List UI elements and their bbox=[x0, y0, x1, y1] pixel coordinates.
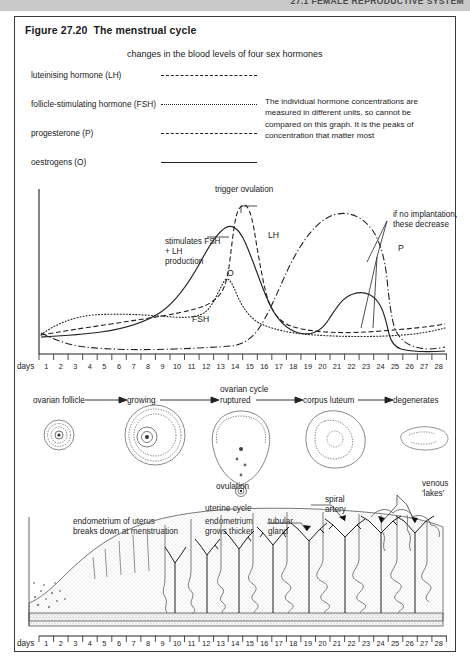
day-tick-label: 16 bbox=[257, 362, 271, 371]
day-tick-label: 12 bbox=[199, 639, 213, 648]
day-tick-label: 7 bbox=[126, 362, 140, 371]
day-tick-label: 17 bbox=[272, 362, 286, 371]
curve-label-p: P bbox=[398, 243, 404, 253]
day-tick-label: 9 bbox=[156, 362, 170, 371]
day-tick-label: 19 bbox=[301, 639, 315, 648]
corpus-luteum bbox=[306, 411, 365, 468]
day-tick-label: 5 bbox=[97, 639, 111, 648]
day-tick-label: 14 bbox=[228, 362, 242, 371]
running-head-text: 27.1 FEMALE REPRODUCTIVE SYSTEM bbox=[291, 0, 464, 6]
day-tick-label: 11 bbox=[185, 639, 199, 648]
curve-label-lh: LH bbox=[268, 230, 279, 240]
day-tick-label: 7 bbox=[126, 639, 140, 648]
day-tick-label: 25 bbox=[388, 362, 402, 371]
day-tick-label: 4 bbox=[83, 362, 97, 371]
day-tick-label: 1 bbox=[39, 362, 53, 371]
day-tick-label: 13 bbox=[214, 639, 228, 648]
annotation-no-implantation: if no implantation, these decrease bbox=[393, 210, 467, 230]
day-tick-label: 15 bbox=[243, 362, 257, 371]
day-tick-label: 22 bbox=[345, 362, 359, 371]
day-tick-label: 2 bbox=[54, 639, 68, 648]
uterine-cycle-diagram bbox=[15, 487, 457, 637]
day-tick-label: 10 bbox=[170, 362, 184, 371]
day-tick-label: 14 bbox=[228, 639, 242, 648]
day-tick-label: 18 bbox=[286, 362, 300, 371]
myometrium-layer bbox=[29, 613, 443, 626]
figure-container: Figure 27.20 The menstrual cycle changes… bbox=[14, 16, 456, 652]
curve-label-fsh: FSH bbox=[192, 314, 209, 324]
day-tick-label: 26 bbox=[403, 362, 417, 371]
day-tick-label: 6 bbox=[112, 639, 126, 648]
follicle-small bbox=[44, 420, 74, 450]
day-tick-label: 21 bbox=[330, 362, 344, 371]
annotation-leaders bbox=[207, 206, 387, 328]
day-tick-label: 18 bbox=[286, 639, 300, 648]
annotation-trigger-ovulation: trigger ovulation bbox=[215, 185, 275, 195]
curve-oestrogens bbox=[41, 226, 445, 351]
day-tick-label: 2 bbox=[54, 362, 68, 371]
hormone-graph bbox=[15, 17, 457, 377]
day-tick-label: 5 bbox=[97, 362, 111, 371]
day-tick-label: 22 bbox=[345, 639, 359, 648]
day-tick-label: 4 bbox=[83, 639, 97, 648]
stage-arrows bbox=[85, 397, 393, 403]
day-tick-label: 3 bbox=[68, 639, 82, 648]
day-tick-label: 25 bbox=[388, 639, 402, 648]
day-tick-label: 20 bbox=[315, 362, 329, 371]
follicle-growing bbox=[125, 405, 185, 465]
uterine-days-word: days bbox=[17, 639, 34, 648]
day-tick-label: 24 bbox=[374, 362, 388, 371]
day-tick-label: 28 bbox=[432, 639, 446, 648]
day-tick-label: 8 bbox=[141, 639, 155, 648]
day-tick-label: 26 bbox=[403, 639, 417, 648]
day-tick-label: 13 bbox=[214, 362, 228, 371]
day-tick-label: 16 bbox=[257, 639, 271, 648]
day-tick-label: 9 bbox=[156, 639, 170, 648]
day-tick-label: 12 bbox=[199, 362, 213, 371]
day-tick-label: 27 bbox=[417, 639, 431, 648]
annotation-stimulates: stimulates FSH + LH production bbox=[165, 237, 221, 267]
day-tick-label: 24 bbox=[374, 639, 388, 648]
corpus-albicans bbox=[401, 427, 448, 450]
day-tick-label: 17 bbox=[272, 639, 286, 648]
day-tick-label: 21 bbox=[330, 639, 344, 648]
day-tick-label: 19 bbox=[301, 362, 315, 371]
graph-x-ticks bbox=[39, 354, 446, 360]
curve-label-o: O bbox=[227, 268, 234, 278]
follicle-ruptured bbox=[212, 411, 270, 485]
day-tick-label: 6 bbox=[112, 362, 126, 371]
day-tick-label: 15 bbox=[243, 639, 257, 648]
day-tick-label: 3 bbox=[68, 362, 82, 371]
day-tick-label: 1 bbox=[39, 639, 53, 648]
page-running-head: 27.1 FEMALE REPRODUCTIVE SYSTEM bbox=[0, 0, 470, 11]
day-tick-label: 23 bbox=[359, 362, 373, 371]
graph-days-word: days bbox=[17, 362, 34, 371]
day-tick-label: 28 bbox=[432, 362, 446, 371]
day-tick-label: 8 bbox=[141, 362, 155, 371]
day-tick-label: 11 bbox=[185, 362, 199, 371]
day-tick-label: 20 bbox=[315, 639, 329, 648]
curve-fsh bbox=[41, 279, 445, 337]
day-tick-label: 27 bbox=[417, 362, 431, 371]
day-tick-label: 23 bbox=[359, 639, 373, 648]
curve-progesterone bbox=[41, 213, 445, 349]
day-tick-label: 10 bbox=[170, 639, 184, 648]
